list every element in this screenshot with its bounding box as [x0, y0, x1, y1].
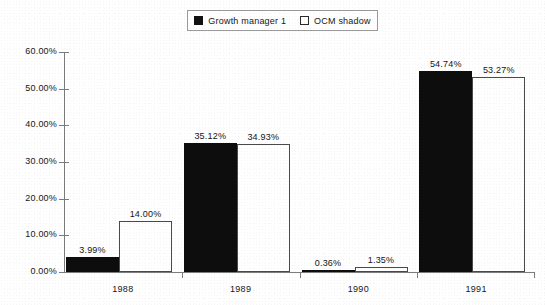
y-axis-tick [59, 272, 69, 273]
x-axis-tick [534, 272, 535, 278]
y-axis-tick-label: 40.00% [25, 119, 57, 129]
bar-value-label: 14.00% [130, 209, 162, 219]
bar-value-label: 0.36% [315, 258, 342, 268]
y-axis-tick [59, 162, 69, 163]
legend-entry: Growth manager 1 [194, 16, 286, 26]
chart-legend: Growth manager 1OCM shadow [187, 10, 378, 31]
bar-value-label: 53.27% [483, 65, 515, 75]
y-axis-tick [59, 89, 69, 90]
bar: 1.35% [355, 267, 408, 272]
bar-chart: Growth manager 1OCM shadow 0.00%10.00%20… [0, 0, 545, 305]
bar-value-label: 34.93% [247, 132, 279, 142]
legend-entry: OCM shadow [300, 16, 371, 26]
y-axis-tick-label: 10.00% [25, 229, 57, 239]
bar: 35.12% [184, 143, 237, 272]
y-axis-tick-label: 0.00% [30, 266, 57, 276]
bar: 34.93% [237, 144, 290, 272]
legend-label: Growth manager 1 [208, 16, 286, 26]
y-axis-tick-label: 20.00% [25, 193, 57, 203]
y-axis-tick-label: 50.00% [25, 83, 57, 93]
x-axis-category-label: 1988 [112, 284, 133, 294]
x-axis-category-label: 1991 [466, 284, 487, 294]
plot-area: 0.00%10.00%20.00%30.00%40.00%50.00%60.00… [64, 52, 535, 272]
bar: 53.27% [472, 77, 525, 272]
x-axis-tick [417, 272, 418, 278]
bar-value-label: 1.35% [368, 255, 395, 265]
y-axis-tick-label: 30.00% [25, 156, 57, 166]
bar-value-label: 3.99% [79, 245, 106, 255]
bar: 0.36% [302, 270, 355, 272]
y-axis-tick [59, 235, 69, 236]
y-axis-tick [59, 199, 69, 200]
filled-square-icon [194, 16, 203, 25]
x-axis-category-label: 1990 [348, 284, 369, 294]
y-axis-tick [59, 125, 69, 126]
bar-value-label: 35.12% [194, 131, 226, 141]
hollow-square-icon [300, 16, 309, 25]
bar: 3.99% [66, 257, 119, 272]
x-axis-tick [182, 272, 183, 278]
bar: 14.00% [119, 221, 172, 272]
bar: 54.74% [419, 71, 472, 272]
x-axis-category-label: 1989 [230, 284, 251, 294]
y-axis-tick [59, 52, 69, 53]
x-axis-tick [300, 272, 301, 278]
y-axis-tick-label: 60.00% [25, 46, 57, 56]
legend-label: OCM shadow [314, 16, 371, 26]
bar-value-label: 54.74% [430, 59, 462, 69]
